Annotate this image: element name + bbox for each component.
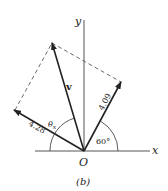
vector-v-label: v [65,81,73,92]
theta-subscript: x [53,123,57,130]
dashed-line-left [15,43,52,110]
vector-diagram: y x O (b) v 4.28 4.09 60° θx [0,0,168,191]
origin-label: O [79,156,88,169]
y-axis-label: y [74,15,82,28]
vector-4-28-label: 4.28 [27,119,47,136]
angle-theta-label: θx [48,120,57,130]
x-axis-label: x [152,144,159,157]
caption: (b) [76,176,90,187]
angle-60-label: 60° [96,137,110,146]
